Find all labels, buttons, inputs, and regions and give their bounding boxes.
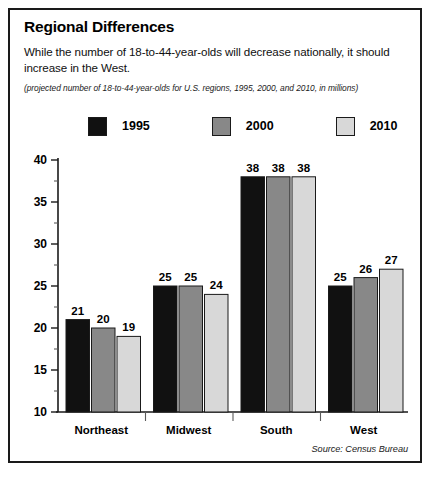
- category-label: Northeast: [74, 424, 128, 436]
- bar: [205, 294, 229, 412]
- bar-value-label: 25: [334, 271, 347, 283]
- y-tick-label: 15: [34, 363, 48, 377]
- category-labels: NortheastMidwestSouthWest: [74, 424, 377, 436]
- bar: [117, 336, 141, 412]
- y-tick-label: 25: [34, 279, 48, 293]
- bar: [179, 286, 203, 412]
- y-tick-label: 10: [34, 405, 48, 419]
- y-axis: 40353025201510: [34, 153, 58, 419]
- bar-value-label: 20: [97, 313, 110, 325]
- bar-value-label: 38: [246, 162, 259, 174]
- bar: [292, 177, 316, 412]
- bar: [154, 286, 178, 412]
- bar-value-label: 38: [297, 162, 310, 174]
- bar-value-label: 25: [184, 271, 197, 283]
- bar: [380, 269, 404, 412]
- bar-value-label: 27: [385, 254, 398, 266]
- bar-value-label: 25: [159, 271, 172, 283]
- bar-value-label: 24: [210, 279, 223, 291]
- bar: [92, 328, 116, 412]
- bar-value-label: 38: [272, 162, 285, 174]
- category-label: South: [260, 424, 293, 436]
- bar-value-label: 26: [359, 263, 372, 275]
- bar: [354, 278, 378, 412]
- bar-chart-plot: 40353025201510 212019252524383838252627 …: [10, 10, 420, 461]
- bar-value-label: 21: [71, 305, 84, 317]
- chart-figure: Regional Differences While the number of…: [8, 8, 422, 463]
- category-label: West: [350, 424, 377, 436]
- bar: [329, 286, 353, 412]
- y-tick-label: 20: [34, 321, 48, 335]
- source-note: Source: Census Bureau: [312, 444, 409, 454]
- y-tick-label: 35: [34, 195, 48, 209]
- category-label: Midwest: [166, 424, 212, 436]
- y-tick-label: 40: [34, 153, 48, 167]
- y-tick-label: 30: [34, 237, 48, 251]
- x-axis: [56, 412, 408, 421]
- bar: [241, 177, 265, 412]
- bars-layer: [66, 177, 403, 412]
- bar-value-label: 19: [122, 321, 135, 333]
- bar: [267, 177, 291, 412]
- bar: [66, 320, 90, 412]
